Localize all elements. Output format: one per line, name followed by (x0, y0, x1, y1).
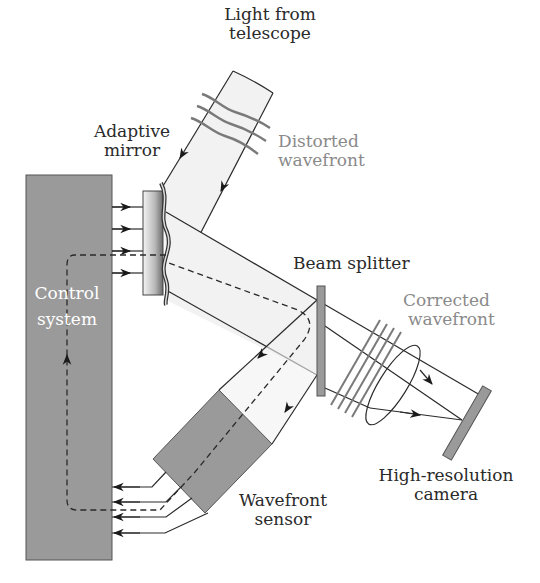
corrected-wavefront-lines (331, 320, 401, 417)
control-signals (112, 207, 143, 273)
control-system-box (26, 175, 112, 560)
label-corrected-2: wavefront (408, 309, 495, 329)
label-distorted-1: Distorted (278, 131, 359, 151)
label-sensor-2: sensor (255, 509, 313, 529)
label-distorted-2: wavefront (278, 150, 365, 170)
label-camera-1: High-resolution (379, 465, 514, 485)
label-beam-splitter: Beam splitter (293, 253, 410, 273)
label-camera-2: camera (414, 484, 478, 504)
adaptive-mirror-actuator (143, 191, 163, 295)
label-light-from-telescope-2: telescope (229, 23, 311, 43)
beam-splitter (317, 286, 325, 396)
label-corrected-1: Corrected (403, 290, 490, 310)
label-light-from-telescope-1: Light from (224, 4, 316, 24)
label-control-1: Control (35, 283, 100, 303)
label-control-2: system (37, 309, 97, 329)
label-adaptive-mirror-2: mirror (104, 140, 161, 160)
label-sensor-1: Wavefront (239, 490, 327, 510)
adaptive-optics-diagram: Light from telescope Distorted wavefront… (0, 0, 540, 583)
lens (357, 339, 429, 432)
camera (443, 386, 492, 460)
label-adaptive-mirror-1: Adaptive (93, 121, 170, 141)
